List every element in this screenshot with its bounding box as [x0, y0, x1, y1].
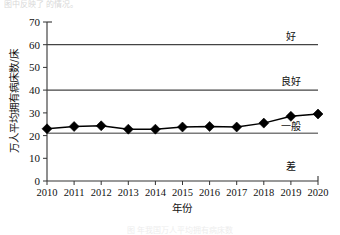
zone-label-poor: 差: [286, 160, 296, 172]
x-tick-label: 2019: [280, 187, 301, 198]
zone-label-average: 一般: [281, 120, 301, 132]
data-point-marker: [178, 122, 188, 132]
x-tick-label: 2020: [308, 187, 329, 198]
data-point-marker: [205, 122, 215, 132]
y-tick-label: 50: [29, 61, 41, 73]
x-tick-label: 2018: [253, 187, 274, 198]
y-tick-label: 0: [35, 175, 41, 187]
x-axis-title: 年份: [172, 202, 193, 214]
x-tick-label: 2015: [172, 187, 193, 198]
line-chart-svg: 70 60 50 40 30 20 10 0 2010 2011 201: [0, 0, 340, 235]
y-axis-title: 万人平均拥有病床数/床: [8, 48, 20, 153]
data-point-marker: [259, 118, 269, 128]
x-tick-label: 2016: [199, 187, 220, 198]
y-tick-label: 70: [29, 16, 41, 28]
x-tick-label: 2012: [91, 187, 112, 198]
y-tick-label: 20: [29, 130, 41, 142]
y-tick-label: 10: [29, 152, 41, 164]
x-tick-label: 2011: [64, 187, 85, 198]
y-axis-tick-labels: 70 60 50 40 30 20 10 0: [29, 16, 41, 187]
y-axis-ticks: [43, 22, 47, 181]
y-tick-label: 30: [29, 107, 41, 119]
x-tick-label: 2017: [226, 187, 247, 198]
data-point-marker: [69, 122, 79, 132]
data-point-marker: [96, 121, 106, 131]
faint-bottom-caption: 图 年我国万人平均拥有病床数: [70, 226, 290, 235]
data-point-marker: [232, 122, 242, 132]
zone-label-good: 好: [286, 31, 296, 42]
x-axis-tick-labels: 2010 2011 2012 2013 2014 2015 2016 2017 …: [37, 187, 329, 198]
zone-label-fairly-good: 良好: [281, 75, 301, 87]
y-tick-label: 40: [29, 84, 41, 96]
x-tick-label: 2013: [118, 187, 139, 198]
data-point-marker: [313, 109, 323, 119]
x-tick-label: 2010: [37, 187, 58, 198]
chart-figure: 图中反映了 的情况。 70 60 50 40 30 20 10: [0, 0, 340, 235]
data-point-marker: [42, 124, 52, 134]
x-axis-ticks: [47, 181, 318, 185]
y-tick-label: 60: [29, 39, 41, 51]
data-point-marker: [286, 111, 296, 121]
x-tick-label: 2014: [145, 187, 167, 198]
